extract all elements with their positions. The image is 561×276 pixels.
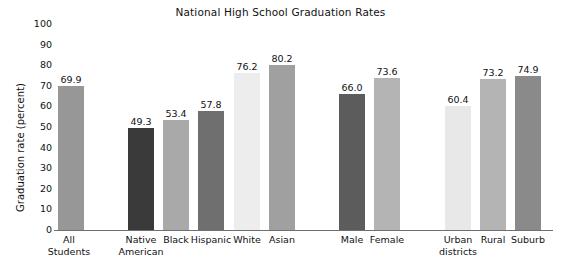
y-tick-90: 90	[26, 40, 52, 50]
bar-hispanic[interactable]: 57.8	[198, 111, 224, 230]
bar-native-american[interactable]: 49.3	[128, 128, 154, 230]
bar-value-label: 74.9	[517, 65, 538, 75]
x-label-asian: Asian	[254, 234, 310, 246]
x-label-suburb: Suburb	[501, 234, 555, 246]
bar-asian[interactable]: 80.2	[269, 65, 295, 230]
bar-value-label: 66.0	[341, 83, 362, 93]
bar-black[interactable]: 53.4	[163, 120, 189, 230]
bar-value-label: 49.3	[130, 117, 151, 127]
bar-male[interactable]: 66.0	[339, 94, 365, 230]
bar-value-label: 53.4	[165, 109, 186, 119]
plot-area: 0102030405060708090100 69.949.353.457.87…	[56, 24, 553, 230]
bar-value-label: 69.9	[60, 75, 81, 85]
bar-white[interactable]: 76.2	[234, 73, 260, 230]
y-axis-title: Graduation rate (percent)	[15, 53, 26, 243]
bar-rural[interactable]: 73.2	[480, 79, 506, 230]
y-tick-10: 10	[26, 205, 52, 215]
bar-value-label: 57.8	[200, 100, 221, 110]
bar-value-label: 60.4	[447, 95, 468, 105]
chart-title: National High School Graduation Rates	[0, 6, 561, 18]
x-axis-line	[54, 230, 553, 231]
x-label-all-students: All Students	[42, 234, 96, 257]
y-tick-100: 100	[26, 19, 52, 29]
bar-chart: National High School Graduation Rates Gr…	[0, 0, 561, 276]
y-tick-30: 30	[26, 163, 52, 173]
bar-suburb[interactable]: 74.9	[515, 76, 541, 230]
y-tick-50: 50	[26, 122, 52, 132]
bar-value-label: 80.2	[271, 54, 292, 64]
x-label-female: Female	[356, 234, 418, 246]
bar-female[interactable]: 73.6	[374, 78, 400, 230]
y-tick-60: 60	[26, 102, 52, 112]
bar-value-label: 73.2	[482, 68, 503, 78]
bar-all-students[interactable]: 69.9	[58, 86, 84, 230]
y-tick-80: 80	[26, 60, 52, 70]
y-tick-20: 20	[26, 184, 52, 194]
y-tick-70: 70	[26, 81, 52, 91]
bar-value-label: 76.2	[236, 62, 257, 72]
y-tick-40: 40	[26, 143, 52, 153]
bar-value-label: 73.6	[376, 67, 397, 77]
bar-urban-districts[interactable]: 60.4	[445, 106, 471, 230]
